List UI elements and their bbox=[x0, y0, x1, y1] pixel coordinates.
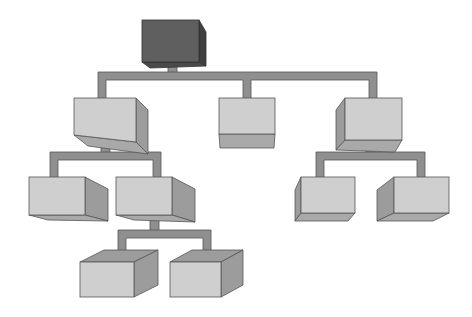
node-l1-center bbox=[219, 98, 275, 148]
node-l1-left bbox=[74, 98, 148, 154]
node-l2-left-b bbox=[116, 177, 195, 222]
connector-root-to-level1 bbox=[98, 60, 377, 100]
node-l3-a bbox=[80, 250, 158, 297]
node-l3-b bbox=[170, 250, 243, 297]
node-l2-right-a bbox=[295, 177, 355, 221]
node-l2-right-b bbox=[377, 177, 449, 221]
hierarchy-diagram: .conn{fill:#8f8f8f;stroke:#555;stroke-wi… bbox=[0, 0, 472, 317]
node-root bbox=[142, 20, 206, 68]
node-l1-right bbox=[336, 98, 402, 152]
node-l2-left-a bbox=[29, 177, 108, 221]
